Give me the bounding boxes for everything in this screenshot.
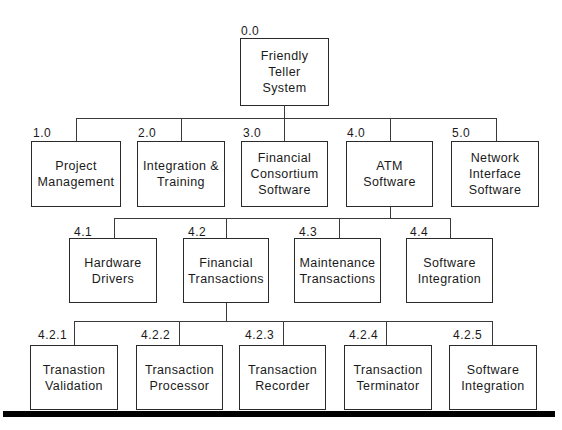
- wbs-diagram: 0.0 Friendly Teller System 1.0 Project M…: [0, 0, 562, 430]
- node-label: ATM Software: [363, 158, 416, 190]
- node-code-4-4: 4.4: [410, 226, 428, 238]
- node-transaction-processor: Transaction Processor: [136, 345, 223, 410]
- node-code-5-0: 5.0: [452, 127, 470, 139]
- connector: [386, 321, 387, 345]
- bottom-rule: [3, 411, 555, 417]
- node-integration-training: Integration & Training: [137, 141, 225, 207]
- node-code-0-0: 0.0: [241, 25, 259, 37]
- connector: [74, 321, 75, 345]
- node-label: Maintenance Transactions: [300, 255, 376, 287]
- connector: [390, 118, 391, 141]
- node-transaction-recorder: Transaction Recorder: [239, 345, 326, 410]
- node-software-integration-4-4: Software Integration: [406, 238, 493, 303]
- connector: [284, 106, 285, 118]
- node-label: Transaction Recorder: [248, 362, 317, 394]
- node-label: Software Integration: [461, 362, 524, 394]
- connector: [114, 218, 450, 219]
- connector: [390, 207, 391, 218]
- connector: [181, 118, 182, 141]
- connector: [76, 118, 496, 119]
- connector: [226, 303, 227, 321]
- node-code-4-2-3: 4.2.3: [245, 329, 274, 341]
- node-code-3-0: 3.0: [243, 127, 261, 139]
- node-label: Friendly Teller System: [261, 48, 309, 96]
- node-project-management: Project Management: [31, 141, 121, 207]
- connector: [284, 118, 285, 141]
- node-transaction-validation: Tranastion Validation: [30, 345, 118, 410]
- connector: [226, 218, 227, 238]
- node-label: Hardware Drivers: [84, 255, 141, 287]
- node-label: Financial Transactions: [188, 255, 264, 287]
- node-transaction-terminator: Transaction Terminator: [344, 345, 432, 410]
- node-label: Software Integration: [418, 255, 481, 287]
- node-financial-consortium-software: Financial Consortium Software: [241, 141, 328, 207]
- node-financial-transactions: Financial Transactions: [183, 238, 269, 303]
- node-code-4-2-5: 4.2.5: [453, 329, 482, 341]
- node-code-4-3: 4.3: [299, 226, 317, 238]
- connector: [496, 118, 497, 141]
- node-code-4-2-4: 4.2.4: [349, 329, 378, 341]
- node-software-integration-4-2-5: Software Integration: [449, 345, 537, 410]
- node-network-interface-software: Network Interface Software: [451, 141, 539, 207]
- node-label: Financial Consortium Software: [251, 150, 319, 198]
- node-hardware-drivers: Hardware Drivers: [69, 238, 157, 303]
- connector: [492, 321, 493, 345]
- node-label: Network Interface Software: [469, 150, 522, 198]
- connector: [283, 321, 284, 345]
- connector: [114, 218, 115, 238]
- connector: [450, 218, 451, 238]
- node-label: Transaction Terminator: [353, 362, 422, 394]
- node-code-2-0: 2.0: [138, 127, 156, 139]
- node-maintenance-transactions: Maintenance Transactions: [294, 238, 381, 303]
- node-code-4-1: 4.1: [74, 226, 92, 238]
- node-code-1-0: 1.0: [33, 127, 51, 139]
- connector: [76, 118, 77, 141]
- node-atm-software: ATM Software: [346, 141, 433, 207]
- node-code-4-2: 4.2: [188, 226, 206, 238]
- node-label: Transaction Processor: [145, 362, 214, 394]
- node-code-4-0: 4.0: [347, 127, 365, 139]
- node-code-4-2-1: 4.2.1: [38, 329, 67, 341]
- node-label: Project Management: [38, 158, 115, 190]
- connector: [179, 321, 180, 345]
- connector: [339, 218, 340, 238]
- node-label: Integration & Training: [143, 158, 219, 190]
- node-friendly-teller-system: Friendly Teller System: [240, 38, 329, 106]
- node-label: Tranastion Validation: [43, 362, 106, 394]
- node-code-4-2-2: 4.2.2: [141, 329, 170, 341]
